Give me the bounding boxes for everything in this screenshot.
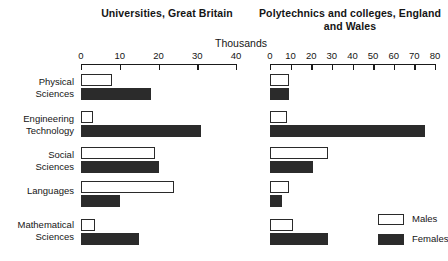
axis-tick (435, 64, 436, 70)
legend-label: Males (412, 213, 437, 224)
x-axis-universities: 010203040 (81, 50, 236, 72)
axis-tick (373, 64, 374, 70)
x-axis-polytechnics: 01020304050607080 (270, 50, 435, 72)
bar-female (81, 88, 151, 100)
bar-male (270, 181, 289, 193)
category-label: Social Sciences (0, 149, 74, 172)
bar-male (81, 181, 174, 193)
category-label: Languages (0, 185, 74, 197)
bar-female (81, 233, 139, 245)
bar-male (81, 219, 95, 231)
bar-female (270, 125, 425, 137)
bar-female (270, 161, 313, 173)
axis-tick (159, 64, 160, 70)
bar-female (81, 125, 201, 137)
units-label: Thousands (196, 37, 286, 49)
bar-male (81, 111, 93, 123)
axis-tick-label: 80 (430, 50, 441, 61)
axis-tick (311, 64, 312, 70)
panel-title-universities: Universities, Great Britain (72, 7, 262, 20)
axis-tick-label: 10 (285, 50, 296, 61)
axis-tick (197, 64, 198, 70)
bar-female (81, 161, 159, 173)
axis-tick-label: 20 (306, 50, 317, 61)
category-label: Mathematical Sciences (0, 219, 74, 242)
bar-female (270, 88, 289, 100)
axis-tick-label: 0 (78, 50, 83, 61)
bar-female (81, 195, 120, 207)
axis-tick-label: 30 (327, 50, 338, 61)
axis-tick-label: 70 (409, 50, 420, 61)
bar-male (270, 111, 287, 123)
legend-label: Females (412, 233, 448, 244)
category-label: Engineering Technology (0, 113, 74, 136)
bar-male (270, 219, 293, 231)
axis-tick (394, 64, 395, 70)
axis-tick (291, 64, 292, 70)
axis-tick (353, 64, 354, 70)
bar-female (270, 195, 282, 207)
axis-tick (332, 64, 333, 70)
category-label: Physical Sciences (0, 76, 74, 99)
axis-tick-label: 40 (347, 50, 358, 61)
axis-tick (270, 64, 271, 70)
axis-tick-label: 50 (368, 50, 379, 61)
bar-male (81, 74, 112, 86)
axis-tick-label: 10 (114, 50, 125, 61)
legend-swatch (378, 214, 404, 225)
axis-tick-label: 20 (153, 50, 164, 61)
bar-female (270, 233, 328, 245)
axis-tick-label: 60 (388, 50, 399, 61)
panel-title-polytechnics: Polytechnics and colleges, England and W… (256, 7, 444, 32)
axis-tick-label: 40 (231, 50, 242, 61)
axis-tick-label: 30 (192, 50, 203, 61)
axis-tick (414, 64, 415, 70)
legend-swatch (378, 234, 404, 245)
bar-male (81, 147, 155, 159)
bar-male (270, 74, 289, 86)
axis-tick-label: 0 (267, 50, 272, 61)
axis-tick (120, 64, 121, 70)
axis-tick (236, 64, 237, 70)
bar-male (270, 147, 328, 159)
axis-tick (81, 64, 82, 70)
